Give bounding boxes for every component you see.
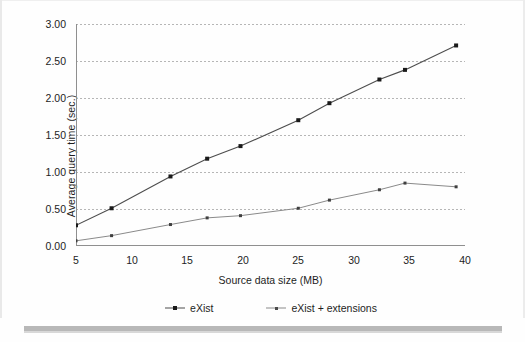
chart-legend: eXist eXist + extensions <box>76 299 465 317</box>
chart-figure: Average query time (sec.) 3.00 2.50 2.00… <box>0 0 525 316</box>
y-tick-label-2-5: 2.50 <box>26 56 66 66</box>
legend-label-exist-extensions: eXist + extensions <box>291 302 377 314</box>
axis-ticks <box>76 24 465 246</box>
legend-marker-icon-exist <box>164 303 186 313</box>
legend-label-exist: eXist <box>190 302 213 314</box>
y-tick-label-1: 1.00 <box>26 167 66 177</box>
legend-item-exist: eXist <box>164 302 213 314</box>
gridlines <box>76 24 465 209</box>
x-tick-label-20: 20 <box>228 254 258 266</box>
x-axis-title: Source data size (MB) <box>76 274 465 286</box>
y-tick-label-1-5: 1.50 <box>26 130 66 140</box>
y-tick-label-0-5: 0.50 <box>26 204 66 214</box>
x-tick-label-25: 25 <box>283 254 313 266</box>
x-tick-label-35: 35 <box>394 254 424 266</box>
legend-marker-icon-exist-extensions <box>265 303 287 313</box>
x-tick-label-15: 15 <box>172 254 202 266</box>
y-tick-label-0: 0.00 <box>26 241 66 251</box>
plot-area <box>76 24 465 246</box>
figure-page: Average query time (sec.) 3.00 2.50 2.00… <box>0 0 525 342</box>
axis-lines <box>76 24 465 246</box>
plot-svg <box>76 24 465 246</box>
x-tick-label-30: 30 <box>339 254 369 266</box>
y-tick-label-3: 3.00 <box>26 19 66 29</box>
x-tick-label-5: 5 <box>61 254 91 266</box>
series-layer <box>76 43 458 242</box>
bottom-rule-shadow <box>24 331 502 333</box>
x-tick-label-40: 40 <box>450 254 480 266</box>
legend-item-exist-extensions: eXist + extensions <box>265 302 377 314</box>
y-tick-label-2: 2.00 <box>26 93 66 103</box>
x-tick-label-10: 10 <box>117 254 147 266</box>
